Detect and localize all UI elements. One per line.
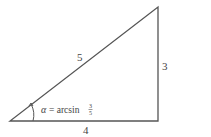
opposite-side-label: 3	[162, 60, 168, 72]
hypotenuse-label: 5	[77, 51, 83, 63]
adjacent-side-label: 4	[83, 124, 89, 136]
triangle-diagram: 5 3 4 α = arcsin 3 5	[0, 0, 211, 137]
fraction-denominator: 5	[89, 110, 92, 116]
fraction-numerator: 3	[89, 103, 92, 109]
angle-arc-icon	[31, 104, 34, 121]
angle-symbol: α	[41, 104, 47, 115]
angle-equation: = arcsin	[49, 105, 80, 115]
